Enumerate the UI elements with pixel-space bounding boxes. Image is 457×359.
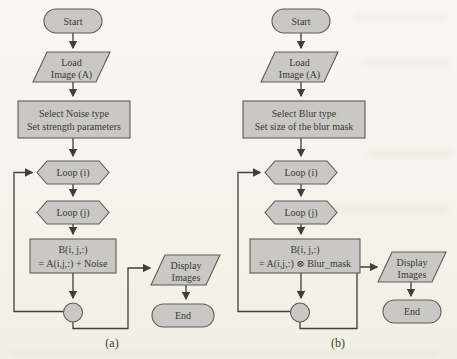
caption-b: (b) bbox=[331, 336, 345, 350]
end-label-a: End bbox=[175, 310, 191, 321]
display-line1-b: Display bbox=[396, 257, 427, 268]
loop-j-node-b: Loop (j) bbox=[265, 201, 337, 224]
start-node-a: Start bbox=[44, 9, 102, 33]
display-line2-a: Images bbox=[172, 272, 201, 283]
start-node-b: Start bbox=[272, 9, 330, 33]
flowchart-b: Start Load Image (A) Select Blur type Se… bbox=[238, 9, 446, 350]
load-image-node-a: Load Image (A) bbox=[33, 52, 110, 82]
setup-line2-a: Set strength parameters bbox=[27, 121, 121, 132]
load-line1-a: Load bbox=[61, 57, 82, 68]
loop-i-node-a: Loop (i) bbox=[37, 161, 109, 184]
load-image-node-b: Load Image (A) bbox=[261, 52, 338, 82]
loop-connector-b bbox=[291, 303, 310, 322]
end-node-a: End bbox=[152, 304, 214, 327]
loop-i-label-a: Loop (i) bbox=[56, 167, 89, 179]
load-line1-b: Load bbox=[289, 57, 310, 68]
setup-node-a: Select Noise type Set strength parameter… bbox=[18, 101, 130, 138]
loop-j-node-a: Loop (j) bbox=[37, 201, 109, 224]
flowchart-a: Start Load Image (A) Select Noise type S… bbox=[14, 9, 220, 350]
caption-a: (a) bbox=[105, 336, 118, 350]
setup-node-b: Select Blur type Set size of the blur ma… bbox=[243, 101, 365, 138]
process-line1-a: B(i, j,:) bbox=[58, 244, 87, 256]
load-line2-a: Image (A) bbox=[51, 69, 92, 81]
flowchart-canvas: Start Load Image (A) Select Noise type S… bbox=[0, 0, 457, 359]
start-label-b: Start bbox=[292, 16, 311, 27]
edge-connector-to-display-a bbox=[73, 268, 150, 329]
setup-line1-b: Select Blur type bbox=[272, 108, 337, 119]
setup-line1-a: Select Noise type bbox=[39, 108, 110, 119]
process-line1-b: B(i, j,:) bbox=[290, 244, 319, 256]
end-label-b: End bbox=[404, 306, 420, 317]
display-node-a: Display Images bbox=[151, 255, 220, 285]
loop-j-label-b: Loop (j) bbox=[284, 207, 317, 219]
load-line2-b: Image (A) bbox=[279, 69, 320, 81]
loop-i-label-b: Loop (i) bbox=[284, 167, 317, 179]
display-line1-a: Display bbox=[170, 260, 201, 271]
end-node-b: End bbox=[383, 300, 441, 323]
start-label-a: Start bbox=[64, 16, 83, 27]
process-line2-a: = A(i,j,:) + Noise bbox=[39, 258, 108, 270]
process-node-b: B(i, j,:) = A(i,j,:) ⊗ Blur_mask bbox=[250, 239, 360, 273]
display-node-b: Display Images bbox=[378, 252, 446, 282]
process-node-a: B(i, j,:) = A(i,j,:) + Noise bbox=[30, 239, 116, 273]
loop-j-label-a: Loop (j) bbox=[56, 207, 89, 219]
loop-connector-a bbox=[64, 303, 83, 322]
setup-line2-b: Set size of the blur mask bbox=[255, 121, 354, 132]
flowchart-figure: Start Load Image (A) Select Noise type S… bbox=[0, 0, 457, 359]
display-line2-b: Images bbox=[398, 269, 427, 280]
process-line2-b: = A(i,j,:) ⊗ Blur_mask bbox=[259, 258, 351, 270]
loop-i-node-b: Loop (i) bbox=[265, 161, 337, 184]
edge-connector-to-display-b bbox=[300, 267, 377, 329]
